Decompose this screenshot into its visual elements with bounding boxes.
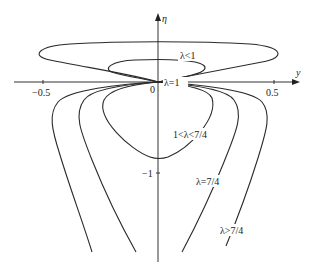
x-tick-label-pos: 0.5	[266, 87, 279, 98]
x-tick-label-neg: −0.5	[32, 87, 50, 98]
label-lambda-lt-1: λ<1	[180, 50, 196, 61]
eta-axis-arrow-icon	[155, 13, 161, 21]
eta-axis-label: η	[162, 13, 167, 24]
curve-lambda-7-4-left	[79, 82, 158, 252]
curve-lambda-gt-7-4-left	[52, 82, 158, 252]
label-lambda-7-4: λ=7/4	[196, 176, 219, 187]
label-lambda-eq-1: λ=1	[164, 77, 180, 88]
phase-diagram: η y 0 −0.5 0.5 −1 λ<1 λ=1 1<λ<7/4 λ=7/4 …	[0, 0, 314, 268]
label-lambda-gt-7-4: λ>7/4	[220, 225, 243, 236]
label-lambda-between: 1<λ<7/4	[173, 129, 207, 140]
curve-lambda-lt-1-inner	[108, 59, 205, 82]
y-axis-arrow-icon	[292, 79, 300, 85]
curve-lambda-lt-1-outer	[39, 42, 278, 82]
origin-label: 0	[150, 84, 155, 95]
y-tick-label-neg1: −1	[142, 168, 153, 179]
y-axis-label: y	[295, 67, 301, 78]
